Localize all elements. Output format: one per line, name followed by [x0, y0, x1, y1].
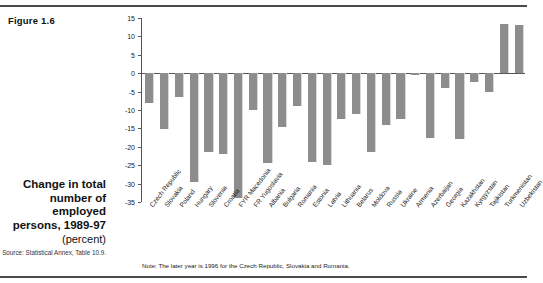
bar	[352, 73, 361, 113]
bar	[500, 24, 509, 74]
bar	[382, 73, 391, 125]
bar	[441, 73, 450, 88]
bar-series	[142, 10, 526, 205]
y-axis-tick-label: -10	[125, 107, 135, 114]
y-axis-tick-label: 10	[127, 33, 135, 40]
bar	[278, 73, 287, 126]
y-axis-tick-label: 15	[127, 15, 135, 22]
bar	[396, 73, 405, 119]
bar	[190, 73, 199, 182]
y-axis-tick-label: 0	[131, 70, 135, 77]
bar	[337, 73, 346, 119]
y-axis-tick-label: 5	[131, 51, 135, 58]
bar	[219, 73, 228, 154]
bar	[367, 73, 376, 152]
bar	[308, 73, 317, 161]
y-axis-tick-label: -5	[129, 88, 135, 95]
bar	[175, 73, 184, 97]
bar	[455, 73, 464, 139]
bar	[293, 73, 302, 106]
bar	[160, 73, 169, 129]
bar	[470, 73, 479, 82]
figure-number-label: Figure 1.6	[8, 15, 55, 26]
bar	[263, 73, 272, 163]
y-axis-tick-label: -25	[125, 162, 135, 169]
bar	[411, 73, 420, 75]
top-divider-rule	[0, 5, 527, 7]
y-axis-tick-label: -15	[125, 125, 135, 132]
bar	[234, 73, 243, 198]
bottom-divider-rule	[0, 276, 527, 278]
figure-caption-title: Change in total number of employed perso…	[2, 178, 106, 232]
y-axis-tick-label: -35	[125, 199, 135, 206]
bar	[426, 73, 435, 137]
bar	[204, 73, 213, 152]
figure-source-text: Source: Statistical Annex, Table 10.9.	[2, 249, 106, 257]
bar	[323, 73, 332, 165]
chart-plot-area: 151050-5-10-15-20-25-30-35 Czech Republi…	[118, 10, 527, 276]
y-axis-tick-labels: 151050-5-10-15-20-25-30-35	[118, 10, 138, 205]
caption-block: Change in total number of employed perso…	[2, 178, 106, 257]
figure-caption-column: Figure 1.6 Change in total number of emp…	[0, 10, 118, 276]
bar	[249, 73, 258, 110]
figure-caption-unit: (percent)	[2, 233, 106, 246]
y-axis-tick-mark	[138, 202, 141, 203]
y-axis-tick-label: -30	[125, 180, 135, 187]
bar	[145, 73, 154, 102]
chart-note-text: Note: The later year is 1996 for the Cze…	[142, 262, 350, 269]
bar	[515, 25, 524, 73]
bar	[485, 73, 494, 91]
y-axis-tick-label: -20	[125, 143, 135, 150]
